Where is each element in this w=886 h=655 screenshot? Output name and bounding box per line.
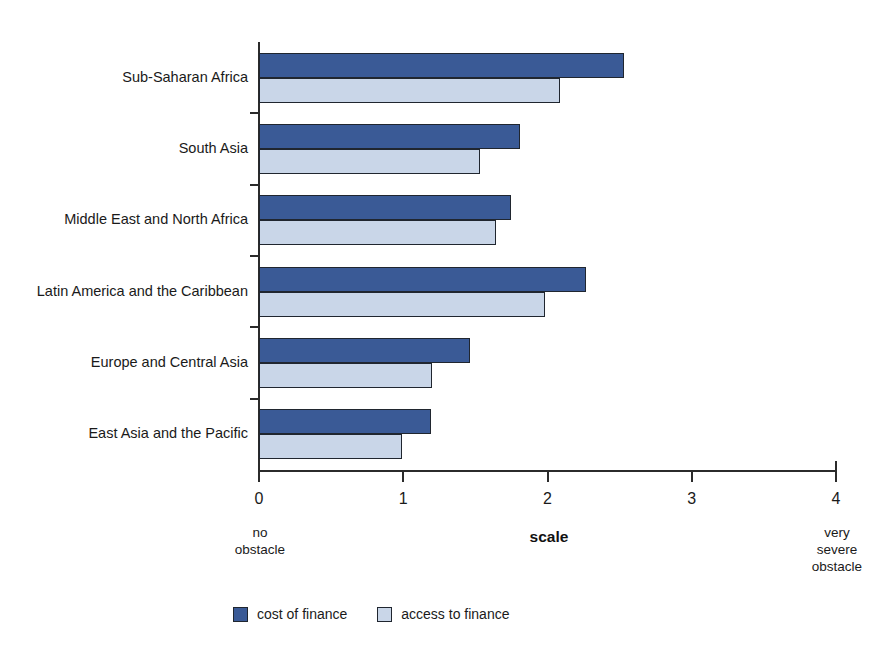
y-tick-1 [250, 184, 259, 186]
bar-access-to-finance-europe-and-central-asia [259, 363, 432, 388]
bar-access-to-finance-south-asia [259, 149, 480, 174]
legend-swatch-cost-of-finance [233, 607, 248, 622]
x-axis-title: scale [489, 528, 609, 546]
bar-chart: Sub-Saharan AfricaSouth AsiaMiddle East … [0, 0, 886, 655]
bar-cost-of-finance-europe-and-central-asia [259, 338, 470, 363]
category-label-south-asia: South Asia [0, 140, 248, 156]
bar-cost-of-finance-sub-saharan-africa [259, 53, 624, 78]
axis-low-note: no obstacle [205, 524, 315, 558]
bar-access-to-finance-middle-east-and-north-africa [259, 220, 496, 245]
bar-cost-of-finance-east-asia-and-the-pacific [259, 409, 431, 434]
x-tick-label-4: 4 [806, 490, 866, 508]
bar-access-to-finance-east-asia-and-the-pacific [259, 434, 402, 459]
bar-cost-of-finance-south-asia [259, 124, 520, 149]
category-label-middle-east-and-north-africa: Middle East and North Africa [0, 211, 248, 227]
category-label-latin-america-and-the-caribbean: Latin America and the Caribbean [0, 283, 248, 299]
bar-access-to-finance-latin-america-and-the-caribbean [259, 292, 545, 317]
x-tick-label-2: 2 [518, 490, 578, 508]
category-label-europe-and-central-asia: Europe and Central Asia [0, 354, 248, 370]
y-axis-top-cap [258, 42, 260, 52]
category-label-east-asia-and-the-pacific: East Asia and the Pacific [0, 425, 248, 441]
bar-cost-of-finance-middle-east-and-north-africa [259, 195, 511, 220]
x-tick-4 [835, 471, 837, 482]
axis-high-note: very severe obstacle [782, 524, 886, 575]
bar-access-to-finance-sub-saharan-africa [259, 78, 560, 103]
legend-item-access-to-finance: access to finance [377, 606, 509, 622]
legend-label-access-to-finance: access to finance [401, 606, 509, 622]
legend-swatch-access-to-finance [377, 607, 392, 622]
axis-low-note-line2: obstacle [205, 541, 315, 558]
bar-cost-of-finance-latin-america-and-the-caribbean [259, 267, 586, 292]
x-tick-label-1: 1 [373, 490, 433, 508]
y-tick-0 [250, 112, 259, 114]
axis-low-note-line1: no [205, 524, 315, 541]
x-tick-1 [402, 471, 404, 482]
legend-item-cost-of-finance: cost of finance [233, 606, 347, 622]
y-tick-2 [250, 255, 259, 257]
axis-high-note-line1: very [782, 524, 886, 541]
category-label-sub-saharan-africa: Sub-Saharan Africa [0, 69, 248, 85]
x-tick-label-0: 0 [229, 490, 289, 508]
legend-label-cost-of-finance: cost of finance [257, 606, 347, 622]
chart-legend: cost of financeaccess to finance [233, 606, 509, 622]
x-tick-2 [547, 471, 549, 482]
y-tick-4 [250, 398, 259, 400]
axis-high-note-line2: severe [782, 541, 886, 558]
axis-high-note-line3: obstacle [782, 558, 886, 575]
x-tick-3 [691, 471, 693, 482]
x-tick-0 [258, 471, 260, 482]
y-tick-3 [250, 326, 259, 328]
x-tick-label-3: 3 [662, 490, 722, 508]
